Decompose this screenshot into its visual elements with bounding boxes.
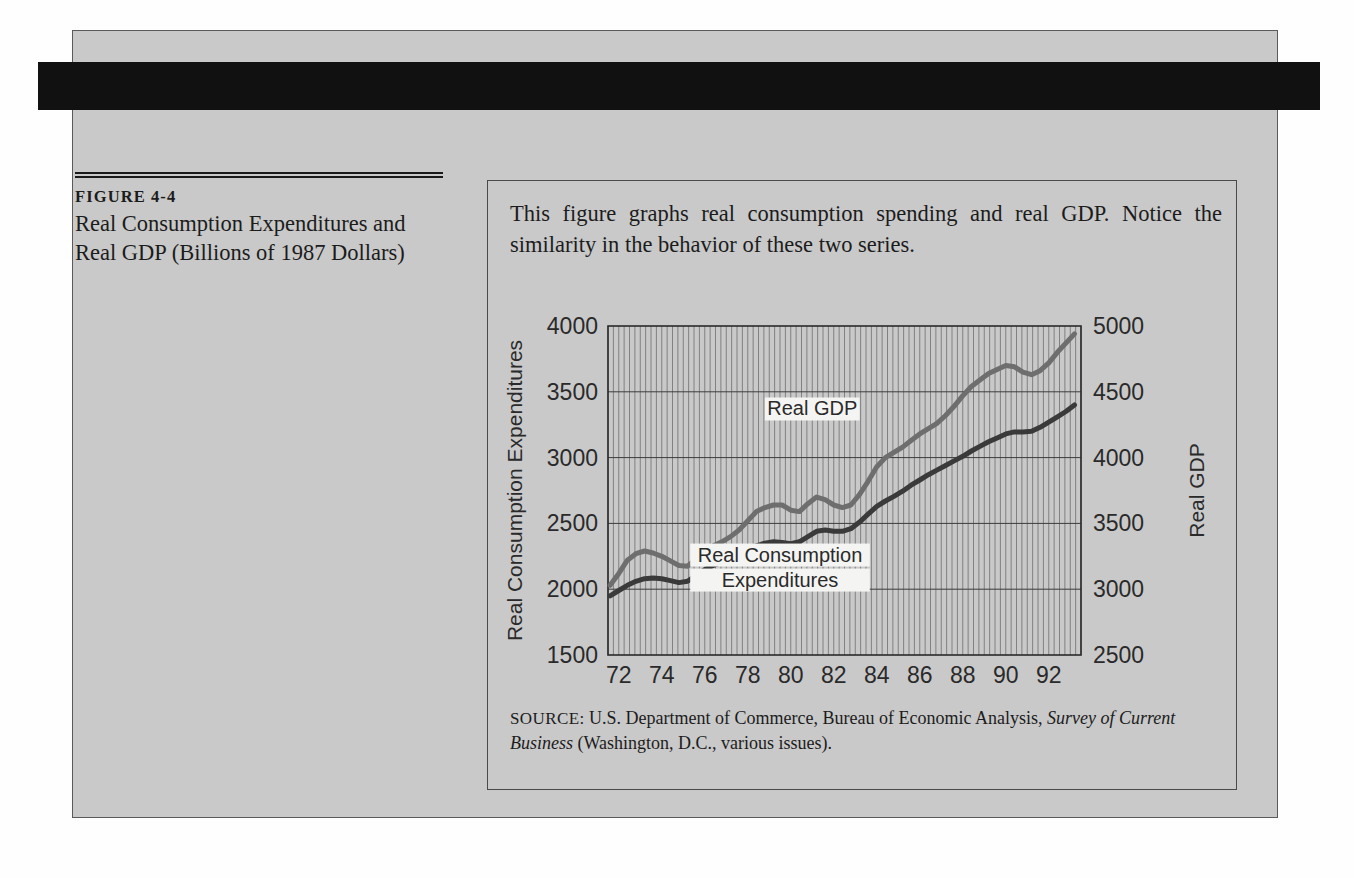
x-axis-tick-label: 84 [864, 662, 890, 683]
source-prefix: SOURCE: [510, 709, 585, 728]
x-axis-tick-label: 92 [1036, 662, 1062, 683]
x-axis-tick-label: 80 [778, 662, 804, 683]
x-axis-tick-label: 88 [950, 662, 976, 683]
y-axis-tick-label: 1500 [547, 642, 598, 668]
figure-description: This figure graphs real consumption spen… [510, 198, 1222, 260]
source-note: SOURCE: U.S. Department of Commerce, Bur… [510, 706, 1216, 756]
figure-number-label: FIGURE 4-4 [75, 187, 445, 207]
y-axis-tick-label: 2500 [547, 510, 598, 536]
x-axis-tick-label: 72 [606, 662, 632, 683]
y2-axis-tick-label: 4000 [1093, 445, 1144, 471]
y2-axis-title: Real GDP [1185, 443, 1208, 538]
y-axis-tick-label: 3500 [547, 379, 598, 405]
label-real-gdp: Real GDP [765, 397, 860, 420]
figure-content-box: This figure graphs real consumption spen… [487, 180, 1237, 790]
line-chart: 1500200025003000350040002500300035004000… [496, 313, 1230, 683]
x-axis-tick-label: 74 [649, 662, 675, 683]
y2-axis-tick-label: 4500 [1093, 379, 1144, 405]
y-axis-tick-label: 2000 [547, 576, 598, 602]
caption-double-rule [75, 172, 443, 178]
svg-text:Expenditures: Expenditures [722, 569, 839, 591]
y2-axis-tick-label: 5000 [1093, 313, 1144, 339]
figure-caption-block: FIGURE 4-4 Real Consumption Expenditures… [75, 172, 445, 267]
figure-page: FIGURE 4-4 Real Consumption Expenditures… [0, 0, 1354, 878]
x-axis-tick-label: 82 [821, 662, 847, 683]
x-axis-tick-label: 86 [907, 662, 933, 683]
svg-text:Real Consumption: Real Consumption [698, 544, 863, 566]
source-tail: (Washington, D.C., various issues). [578, 733, 833, 753]
source-text: U.S. Department of Commerce, Bureau of E… [589, 708, 1042, 728]
chart-area: 1500200025003000350040002500300035004000… [496, 313, 1230, 683]
svg-text:Real GDP: Real GDP [767, 397, 857, 419]
black-banner-bar [38, 62, 1320, 110]
x-axis-tick-label: 76 [692, 662, 718, 683]
x-axis-tick-label: 78 [735, 662, 761, 683]
y2-axis-tick-label: 3500 [1093, 510, 1144, 536]
figure-title: Real Consumption Expenditures and Real G… [75, 209, 435, 267]
y-axis-tick-label: 4000 [547, 313, 598, 339]
y-axis-tick-label: 3000 [547, 445, 598, 471]
x-axis-tick-label: 90 [993, 662, 1019, 683]
y2-axis-tick-label: 2500 [1093, 642, 1144, 668]
y-axis-title: Real Consumption Expenditures [503, 340, 526, 641]
y2-axis-tick-label: 3000 [1093, 576, 1144, 602]
